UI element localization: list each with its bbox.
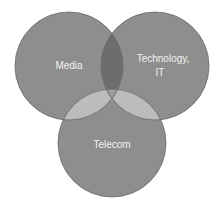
- telecom-label: Telecom: [93, 139, 130, 150]
- venn-diagram: Media Technology, IT Telecom: [0, 0, 222, 210]
- tech-label-line1: Technology,: [137, 53, 190, 64]
- media-label: Media: [55, 60, 83, 71]
- tech-label-line2: IT: [156, 67, 165, 78]
